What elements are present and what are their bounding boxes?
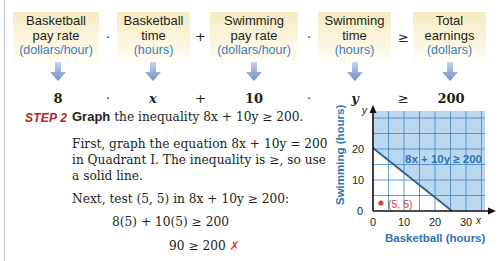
paragraph-line: First, graph the equation 8x + 10y = 200 [72,136,328,152]
value-basketball-time: x [145,91,161,106]
x-tick-label: 30 [460,216,472,228]
inequality-graph: (5, 5) 8x + 10y ≥ 200 0 10 20 y 0 10 20 … [300,105,500,261]
box-swimming-pay-rate: Swimming pay rate (dollars/hour) [210,12,298,61]
region-label: 8x + 10y ≥ 200 [405,153,482,165]
value-total-earnings: 200 [437,91,465,106]
box-label-line2: time [117,28,190,43]
operator-geq: ≥ [398,30,409,45]
operator-plus: + [195,29,206,44]
box-label-line2: time [318,28,391,43]
step-heading: Graph the inequality 8x + 10y ≥ 200. [72,109,303,125]
box-total-earnings: Total earnings (dollars) [413,12,486,61]
box-unit: (dollars/hour) [13,43,99,58]
y-axis-title: Swimming (hours) [334,105,346,205]
paragraph-line: a solid line. [72,168,328,184]
box-unit: (hours) [117,43,190,58]
box-unit: (hours) [318,43,391,58]
value-basketball-rate: 8 [50,91,66,106]
down-arrow-icon [145,62,161,82]
calc-line-1: 8(5) + 10(5) ≥ 200 [112,214,229,230]
box-label-line1: Swimming [210,13,298,28]
value-operator-times: · [106,91,110,106]
down-arrow-icon [50,62,66,82]
box-label-line1: Total [413,13,486,28]
y-tick-label: 0 [357,205,363,217]
box-swimming-time: Swimming time (hours) [318,12,391,61]
value-operator-times: · [307,91,311,106]
x-var-label: x [475,215,482,226]
paragraph-next: Next, test (5, 5) in 8x + 10y ≥ 200: [72,191,289,207]
y-tick-label: 10 [352,174,364,186]
box-basketball-time: Basketball time (hours) [117,12,190,61]
x-axis-title: Basketball (hours) [385,232,485,244]
y-var-label: y [361,105,368,116]
calc-result: 90 ≥ 200 [169,239,226,253]
down-arrow-icon [442,62,458,82]
y-tick-label: 20 [352,143,364,155]
down-arrow-icon [246,62,262,82]
x-axis-arrow-icon [488,208,496,215]
x-tick-label: 0 [370,216,376,228]
operator-times: · [307,30,311,45]
value-swimming-rate: 10 [244,91,264,106]
value-swimming-time: y [347,91,363,106]
value-operator-geq: ≥ [398,91,409,106]
box-label-line2: pay rate [210,28,298,43]
x-tick-label: 10 [398,216,410,228]
box-unit: (dollars) [413,43,486,58]
paragraph-line: in Quadrant I. The inequality is ≥, so u… [72,152,328,168]
operator-times: · [106,30,110,45]
box-label-line1: Swimming [318,13,391,28]
box-label-line2: pay rate [13,28,99,43]
step-heading-bold: Graph [72,109,110,124]
box-label-line2: earnings [413,28,486,43]
cross-mark-icon: ✗ [230,239,240,253]
box-label-line1: Basketball [117,13,190,28]
test-point [378,200,383,205]
calc-line-2: 90 ≥ 200 ✗ [169,238,240,254]
value-operator-plus: + [195,91,206,106]
paragraph-first: First, graph the equation 8x + 10y = 200… [72,136,328,184]
test-point-label: (5, 5) [388,198,413,210]
box-basketball-pay-rate: Basketball pay rate (dollars/hour) [13,12,99,61]
page-margin-rule [4,0,5,261]
step-heading-text: the inequality 8x + 10y ≥ 200. [110,110,303,124]
y-axis-arrow-icon [370,105,377,113]
box-label-line1: Basketball [13,13,99,28]
step-label: STEP 2 [25,111,67,125]
down-arrow-icon [347,62,363,82]
x-tick-label: 20 [429,216,441,228]
box-unit: (dollars/hour) [210,43,298,58]
